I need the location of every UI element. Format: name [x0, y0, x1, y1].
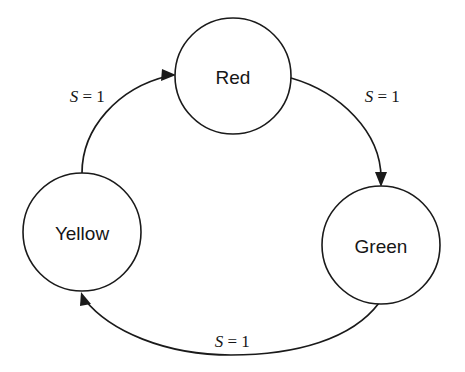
arrow-head-into-red — [161, 69, 176, 81]
arrow-head-into-green — [375, 172, 387, 187]
condition-value: = 1 — [223, 332, 250, 351]
state-node-green[interactable]: Green — [322, 186, 440, 304]
transition-label-red-to-green: S = 1 — [335, 87, 421, 106]
state-label-green: Green — [355, 236, 408, 257]
state-label-red: Red — [216, 67, 251, 88]
state-diagram-svg: Red Yellow Green S = 1 S = 1 S = 1 — [0, 0, 465, 372]
transition-label-green-to-yellow: S = 1 — [185, 332, 271, 351]
state-label-yellow: Yellow — [55, 223, 110, 244]
condition-value: = 1 — [78, 87, 105, 106]
state-diagram-canvas: Red Yellow Green S = 1 S = 1 S = 1 — [0, 0, 465, 372]
arrow-head-into-yellow — [80, 292, 91, 306]
condition-value: = 1 — [373, 87, 400, 106]
transition-yellow-to-red[interactable] — [82, 69, 176, 173]
transition-label-yellow-to-red: S = 1 — [40, 87, 126, 106]
state-node-yellow[interactable]: Yellow — [23, 173, 141, 291]
state-node-red[interactable]: Red — [175, 18, 291, 134]
